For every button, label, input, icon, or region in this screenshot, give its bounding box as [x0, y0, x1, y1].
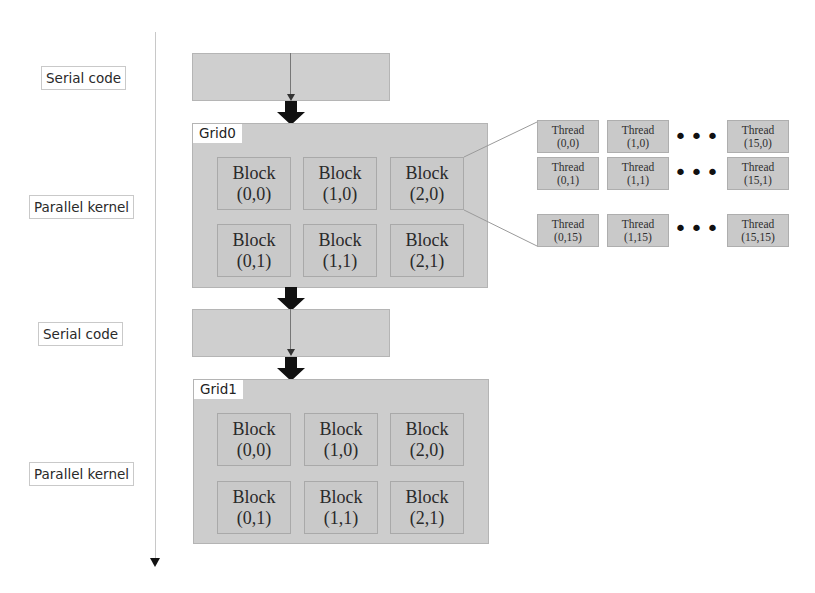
thread-label: Thread [608, 124, 668, 137]
thread-coord: (1,15) [608, 231, 668, 244]
flow-arrow-icon [277, 287, 305, 311]
thread-label: Thread [608, 218, 668, 231]
thread-label: Thread [728, 218, 788, 231]
thread-1-0: Thread(1,0) [607, 120, 669, 153]
ellipsis-icon: ••• [672, 132, 724, 142]
flow-arrow-icon [277, 357, 305, 381]
block-coord: (1,1) [305, 508, 377, 529]
grid1-label: Grid1 [194, 380, 243, 399]
grid1-block-0-0: Block(0,0) [217, 413, 291, 466]
block-label: Block [305, 419, 377, 440]
thread-0-0: Thread(0,0) [537, 120, 599, 153]
block-label: Block [391, 419, 463, 440]
serial-flow-arrowhead-icon [287, 349, 295, 356]
block-coord: (1,0) [305, 440, 377, 461]
block-label: Block [391, 487, 463, 508]
block-coord: (2,0) [391, 440, 463, 461]
thread-coord: (0,1) [538, 174, 598, 187]
thread-coord: (1,0) [608, 137, 668, 150]
thread-1-15: Thread(1,15) [607, 214, 669, 247]
block-coord: (0,0) [218, 440, 290, 461]
ellipsis-icon: ••• [672, 168, 724, 178]
block-coord: (0,1) [218, 508, 290, 529]
thread-label: Thread [538, 124, 598, 137]
thread-coord: (0,15) [538, 231, 598, 244]
grid1-block-2-1: Block(2,1) [390, 481, 464, 534]
thread-1-1: Thread(1,1) [607, 157, 669, 190]
thread-coord: (0,0) [538, 137, 598, 150]
thread-coord: (15,1) [728, 174, 788, 187]
thread-15-1: Thread(15,1) [727, 157, 789, 190]
thread-0-15: Thread(0,15) [537, 214, 599, 247]
grid1-block-2-0: Block(2,0) [390, 413, 464, 466]
block-label: Block [305, 487, 377, 508]
thread-coord: (15,15) [728, 231, 788, 244]
thread-15-0: Thread(15,0) [727, 120, 789, 153]
thread-label: Thread [538, 161, 598, 174]
thread-15-15: Thread(15,15) [727, 214, 789, 247]
thread-label: Thread [728, 161, 788, 174]
thread-label: Thread [608, 161, 668, 174]
grid1-block-0-1: Block(0,1) [217, 481, 291, 534]
grid1-block-1-0: Block(1,0) [304, 413, 378, 466]
ellipsis-icon: ••• [672, 224, 724, 234]
thread-label: Thread [538, 218, 598, 231]
block-coord: (2,1) [391, 508, 463, 529]
block-label: Block [218, 419, 290, 440]
thread-coord: (15,0) [728, 137, 788, 150]
thread-0-1: Thread(0,1) [537, 157, 599, 190]
grid1-block-1-1: Block(1,1) [304, 481, 378, 534]
block-label: Block [218, 487, 290, 508]
serial-flow-line-2 [290, 309, 291, 351]
thread-label: Thread [728, 124, 788, 137]
thread-coord: (1,1) [608, 174, 668, 187]
